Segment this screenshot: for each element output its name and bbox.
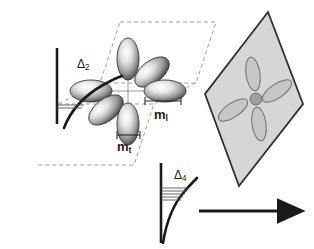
delta2-label: Δ2	[77, 58, 90, 72]
mt-subscript: t	[129, 145, 132, 155]
valley-right	[144, 80, 186, 102]
projection-plane-parallelogram	[205, 12, 303, 186]
delta2-symbol: Δ	[77, 57, 85, 71]
plane-center-dot	[250, 93, 262, 105]
ml-symbol: m	[154, 107, 166, 122]
delta2-level-lines	[57, 105, 84, 108]
delta2-subscript: 2	[85, 63, 90, 72]
delta4-subscript: 4	[182, 174, 187, 183]
ml-subscript: l	[166, 113, 168, 123]
delta4-label: Δ4	[174, 169, 187, 183]
figure-root: Δ2 Δ4 ml mt z	[0, 0, 314, 249]
mt-symbol: m	[117, 139, 129, 154]
delta4-symbol: Δ	[174, 168, 182, 182]
valley-up	[117, 38, 139, 80]
mass-transverse-label: mt	[117, 140, 132, 155]
z-axis-label: z	[288, 202, 296, 217]
figure-canvas	[0, 0, 314, 249]
mass-longitudinal-label: ml	[154, 108, 168, 123]
